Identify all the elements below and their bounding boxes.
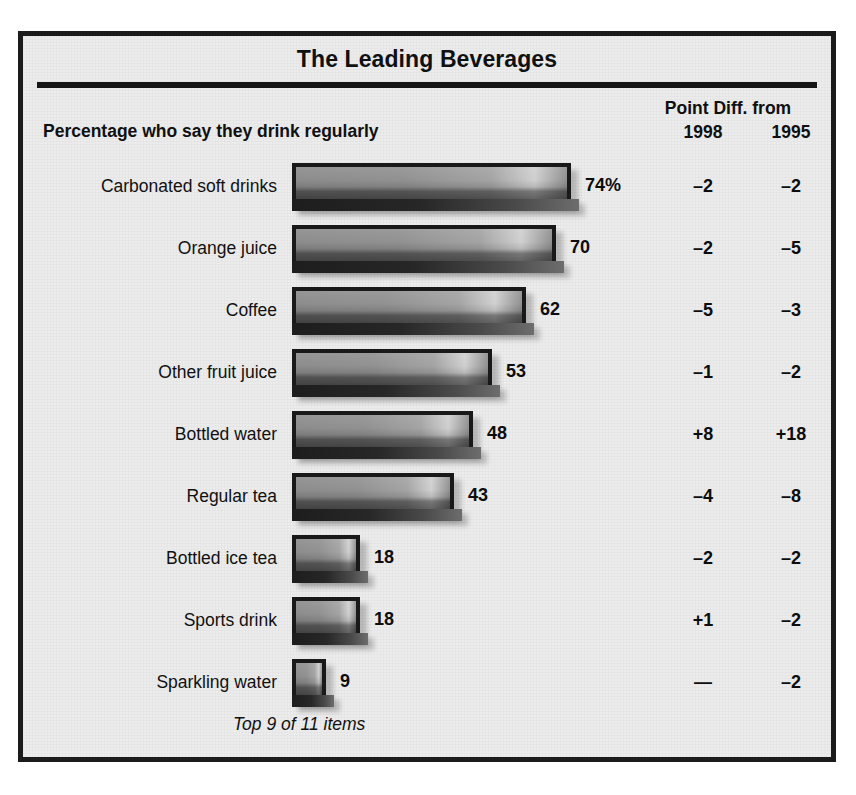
bar	[292, 163, 571, 205]
category-label: Regular tea	[23, 486, 277, 507]
bar-value-label: 62	[540, 299, 560, 320]
diff-1995-value: –2	[756, 548, 826, 569]
bar-wrapper	[292, 225, 556, 271]
bar-shading	[296, 291, 522, 325]
diff-1998-value: +1	[668, 610, 738, 631]
subhead-label: Percentage who say they drink regularly	[43, 121, 379, 142]
bar-wrapper	[292, 473, 454, 519]
category-label: Other fruit juice	[23, 362, 277, 383]
bar-value-label: 74%	[585, 175, 621, 196]
diff-1995-value: –5	[756, 238, 826, 259]
bar-wrapper	[292, 659, 326, 705]
bar-base-band	[292, 261, 564, 273]
column-header-1995: 1995	[756, 122, 826, 143]
diff-1995-value: –2	[756, 362, 826, 383]
diff-1998-value: –1	[668, 362, 738, 383]
bar-wrapper	[292, 349, 492, 395]
bar-value-label: 18	[374, 609, 394, 630]
bar-base-band	[292, 447, 481, 459]
bar	[292, 659, 326, 701]
bar-base-band	[292, 509, 462, 521]
chart-row: Sparkling water9—–2	[23, 655, 831, 717]
chart-row: Other fruit juice53–1–2	[23, 345, 831, 407]
chart-row: Bottled water48+8+18	[23, 407, 831, 469]
category-label: Sparkling water	[23, 672, 277, 693]
category-label: Sports drink	[23, 610, 277, 631]
bar-wrapper	[292, 287, 526, 333]
diff-1995-value: –3	[756, 300, 826, 321]
diff-1998-value: –4	[668, 486, 738, 507]
bar-base-band	[292, 633, 368, 645]
bar-wrapper	[292, 535, 360, 581]
diff-1998-value: –5	[668, 300, 738, 321]
bar	[292, 225, 556, 267]
bar-wrapper	[292, 597, 360, 643]
diff-1998-value: –2	[668, 176, 738, 197]
bar-value-label: 53	[506, 361, 526, 382]
bar-base-band	[292, 571, 368, 583]
diff-1995-value: –8	[756, 486, 826, 507]
category-label: Bottled water	[23, 424, 277, 445]
bar-base-band	[292, 323, 534, 335]
bar	[292, 535, 360, 577]
bar-shading	[296, 229, 552, 263]
bar-base-band	[292, 385, 500, 397]
diff-1998-value: –2	[668, 548, 738, 569]
category-label: Orange juice	[23, 238, 277, 259]
bar-value-label: 18	[374, 547, 394, 568]
bar-shading	[296, 477, 450, 511]
page-title: The Leading Beverages	[23, 46, 831, 73]
bar-base-band	[292, 199, 579, 211]
bar	[292, 411, 473, 453]
chart-row: Sports drink18+1–2	[23, 593, 831, 655]
bar-value-label: 48	[487, 423, 507, 444]
bar-shading	[296, 663, 322, 697]
bar-value-label: 9	[340, 671, 350, 692]
bar-shading	[296, 353, 488, 387]
diff-1995-value: +18	[756, 424, 826, 445]
bar	[292, 473, 454, 515]
category-label: Bottled ice tea	[23, 548, 277, 569]
chart-row: Orange juice70–2–5	[23, 221, 831, 283]
diff-1998-value: +8	[668, 424, 738, 445]
chart-row: Bottled ice tea18–2–2	[23, 531, 831, 593]
diff-1995-value: –2	[756, 176, 826, 197]
bar-value-label: 43	[468, 485, 488, 506]
chart-row: Regular tea43–4–8	[23, 469, 831, 531]
bar	[292, 287, 526, 329]
diff-1998-value: –2	[668, 238, 738, 259]
column-header-1998: 1998	[668, 122, 738, 143]
title-divider	[37, 82, 817, 88]
bar-shading	[296, 601, 356, 635]
category-label: Carbonated soft drinks	[23, 176, 277, 197]
diff-1998-value: —	[668, 672, 738, 693]
bar-wrapper	[292, 411, 473, 457]
bar-value-label: 70	[570, 237, 590, 258]
chart-rows: Carbonated soft drinks74%–2–2Orange juic…	[23, 159, 831, 717]
bar	[292, 349, 492, 391]
footnote: Top 9 of 11 items	[233, 714, 365, 735]
chart-page: The Leading Beverages Percentage who say…	[0, 0, 856, 795]
chart-panel: The Leading Beverages Percentage who say…	[18, 31, 836, 762]
bar-shading	[296, 415, 469, 449]
bar-shading	[296, 167, 567, 201]
diff-1995-value: –2	[756, 672, 826, 693]
bar	[292, 597, 360, 639]
diff-group-header: Point Diff. from	[643, 98, 813, 119]
chart-row: Coffee62–5–3	[23, 283, 831, 345]
bar-wrapper	[292, 163, 571, 209]
chart-row: Carbonated soft drinks74%–2–2	[23, 159, 831, 221]
diff-1995-value: –2	[756, 610, 826, 631]
bar-base-band	[292, 695, 334, 707]
bar-shading	[296, 539, 356, 573]
category-label: Coffee	[23, 300, 277, 321]
